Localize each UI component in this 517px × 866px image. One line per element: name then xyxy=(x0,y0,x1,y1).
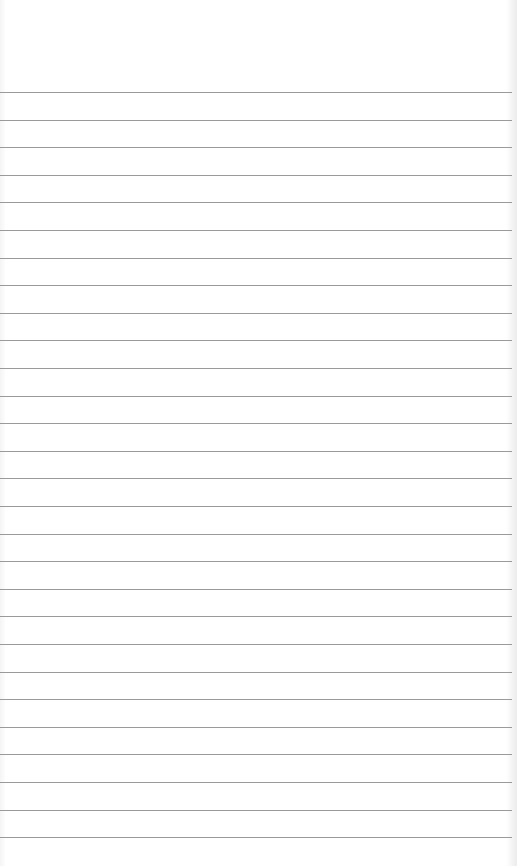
ruled-line xyxy=(0,202,512,203)
ruled-line xyxy=(0,616,512,617)
ruled-line xyxy=(0,561,512,562)
ruled-line xyxy=(0,396,512,397)
ruled-line xyxy=(0,754,512,755)
ruled-line xyxy=(0,451,512,452)
ruled-line xyxy=(0,810,512,811)
ruled-line xyxy=(0,534,512,535)
ruled-line xyxy=(0,285,512,286)
ruled-line xyxy=(0,837,512,838)
ruled-line xyxy=(0,727,512,728)
lined-paper xyxy=(0,0,517,866)
ruled-line xyxy=(0,313,512,314)
ruled-line xyxy=(0,92,512,93)
ruled-line xyxy=(0,340,512,341)
ruled-line xyxy=(0,589,512,590)
ruled-line xyxy=(0,120,512,121)
ruled-line xyxy=(0,368,512,369)
ruled-line xyxy=(0,175,512,176)
ruled-line xyxy=(0,782,512,783)
ruled-line xyxy=(0,258,512,259)
ruled-line xyxy=(0,230,512,231)
ruled-line xyxy=(0,478,512,479)
ruled-line xyxy=(0,644,512,645)
ruled-line xyxy=(0,506,512,507)
ruled-line xyxy=(0,699,512,700)
ruled-line xyxy=(0,423,512,424)
ruled-line xyxy=(0,147,512,148)
ruled-line xyxy=(0,672,512,673)
